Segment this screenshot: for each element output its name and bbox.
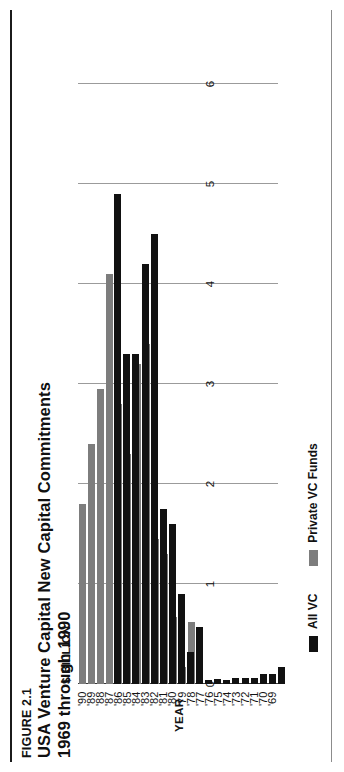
figure-container: FIGURE 2.1 USA Venture Capital New Capit… [0,0,344,772]
bar-all-vc [196,627,203,684]
bar-all-vc [223,681,230,685]
chart-legend: All VC Private VC Funds [306,443,320,652]
legend-label-all-vc: All VC [306,594,320,629]
value-tick-label: 3 [204,381,216,387]
value-tick-label: 5 [204,181,216,187]
bar-all-vc [160,509,167,684]
top-rule-divider [10,10,12,762]
plot-area [78,84,278,684]
bar-all-vc [132,354,139,684]
bar-group [105,84,114,684]
value-tick-label: 4 [204,281,216,287]
legend-swatch-all-vc [309,636,318,652]
bar-all-vc [142,264,149,684]
bar-all-vc [242,678,249,684]
bar-all-vc [169,524,176,684]
figure-number: FIGURE 2.1 [20,258,35,758]
bar-group [187,84,196,684]
bar-all-vc [151,234,158,684]
bar-all-vc [123,354,130,684]
bar-group [260,84,269,684]
legend-item-private-vc-funds: Private VC Funds [306,443,320,565]
bar-private-vc-funds [88,444,95,684]
value-tick-label: 6 [204,81,216,87]
value-tick-label: 2 [204,481,216,487]
figure-title-line-1: USA Venture Capital New Capital Commitme… [35,258,55,758]
bottom-rule-divider [331,10,332,762]
bar-all-vc [187,652,194,684]
bar-private-vc-funds [79,504,86,684]
bar-private-vc-funds [97,389,104,684]
bar-all-vc [260,674,267,684]
bar-group [87,84,96,684]
category-axis-label: YEAR [173,698,185,732]
bar-group [269,84,278,684]
category-tick-label: '90 [76,692,88,706]
bar-group [251,84,260,684]
value-axis-label: $ BILLION [60,626,72,684]
bar-group [233,84,242,684]
legend-item-all-vc: All VC [306,594,320,652]
bar-all-vc [114,194,121,684]
bar-private-vc-funds [106,274,113,684]
value-tick-label: 1 [204,581,216,587]
figure-page: FIGURE 2.1 USA Venture Capital New Capit… [0,0,344,772]
bar-all-vc [251,678,258,684]
bar-all-vc [232,678,239,684]
bar-all-vc [269,674,276,684]
rotated-figure-stage: FIGURE 2.1 USA Venture Capital New Capit… [0,0,344,772]
legend-swatch-private-vc-funds [309,550,318,566]
bar-group [242,84,251,684]
bar-group [78,84,87,684]
legend-label-private-vc-funds: Private VC Funds [306,443,320,542]
bar-group [223,84,232,684]
bar-group [96,84,105,684]
bar-all-vc [278,667,285,684]
value-tick-label: 0 [204,681,216,687]
bar-all-vc [178,594,185,684]
